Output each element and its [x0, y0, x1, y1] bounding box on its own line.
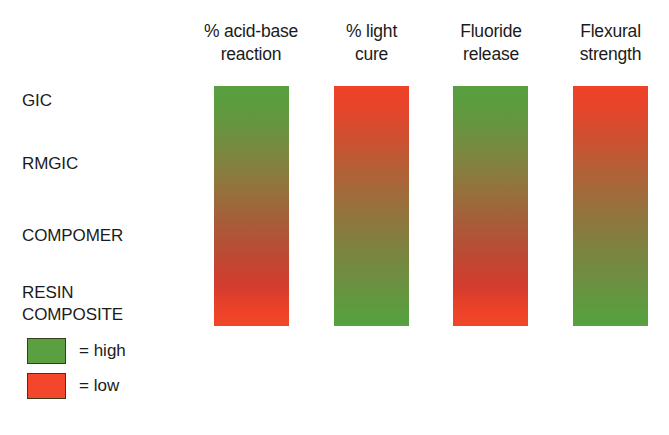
- column-header-acid-base-reaction: % acid-base reaction: [196, 20, 306, 66]
- gradient-fill-acid-base-reaction: [214, 86, 289, 326]
- legend-item-high: = high: [27, 338, 126, 364]
- gradient-bar-acid-base-reaction: [214, 86, 289, 326]
- legend-item-low: = low: [27, 373, 119, 399]
- gradient-bar-light-cure: [334, 86, 409, 326]
- row-label-gic: GIC: [22, 90, 52, 112]
- row-label-compomer: COMPOMER: [22, 225, 123, 247]
- row-label-rmgic: RMGIC: [22, 153, 78, 175]
- legend-label-low: = low: [79, 376, 119, 396]
- column-header-light-cure: % light cure: [324, 20, 419, 66]
- gradient-fill-fluoride-release: [453, 86, 528, 326]
- row-label-resin-composite: RESIN COMPOSITE: [22, 282, 123, 326]
- property-gradient-figure: % acid-base reaction % light cure Fluori…: [0, 0, 669, 435]
- legend-swatch-low-icon: [27, 373, 66, 399]
- gradient-fill-light-cure: [334, 86, 409, 326]
- gradient-bar-flexural-strength: [573, 86, 648, 326]
- gradient-fill-flexural-strength: [573, 86, 648, 326]
- column-header-flexural-strength: Flexural strength: [558, 20, 663, 66]
- gradient-bar-fluoride-release: [453, 86, 528, 326]
- column-header-fluoride-release: Fluoride release: [440, 20, 542, 66]
- legend-label-high: = high: [79, 341, 126, 361]
- legend-swatch-high-icon: [27, 338, 66, 364]
